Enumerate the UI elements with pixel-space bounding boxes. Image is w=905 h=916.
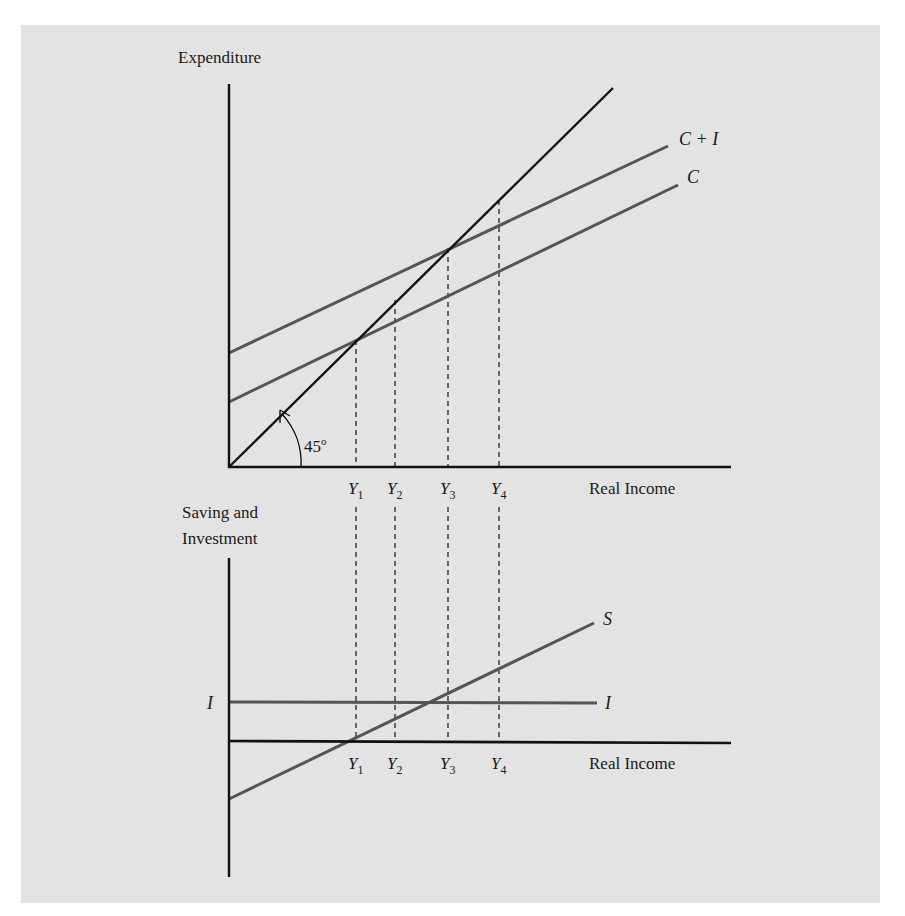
tick-y2: Y2: [387, 479, 402, 502]
forty-five-degree-line: [229, 88, 613, 467]
tick-y1: Y1: [348, 479, 363, 502]
angle-label: 45o: [304, 435, 327, 456]
s-curve-label: S: [603, 609, 612, 629]
investment-label: Investment: [182, 529, 258, 548]
top-panel: Expenditure 45o C + I C Y1 Y2 Y3 Y4 Real…: [178, 48, 731, 502]
saving-line: [229, 623, 594, 799]
tick-y1-bottom: Y1: [348, 754, 363, 777]
tick-y2-bottom: Y2: [387, 754, 402, 777]
tick-y4-bottom: Y4: [491, 754, 506, 777]
bottom-panel: Saving and Investment I I S Y1 Y2 Y3 Y4 …: [182, 503, 731, 877]
tick-y3: Y3: [440, 479, 455, 502]
keynesian-cross-diagram: Expenditure 45o C + I C Y1 Y2 Y3 Y4 Real…: [0, 0, 905, 916]
connector-guide-lines: [356, 507, 499, 741]
real-income-label-bottom: Real Income: [589, 754, 675, 773]
c-label: C: [687, 167, 700, 187]
i-axis-label: I: [206, 693, 214, 713]
tick-y4: Y4: [491, 479, 506, 502]
i-curve-label: I: [604, 693, 612, 713]
c-line: [229, 185, 678, 402]
tick-y3-bottom: Y3: [440, 754, 455, 777]
angle-arc-icon: [282, 414, 301, 467]
saving-label: Saving and: [182, 503, 259, 522]
real-income-label-top: Real Income: [589, 479, 675, 498]
real-income-axis-bottom: [228, 741, 731, 743]
expenditure-axis-label: Expenditure: [178, 48, 261, 67]
top-guide-lines: [356, 200, 499, 467]
investment-line: [229, 702, 597, 703]
c-plus-i-label: C + I: [679, 129, 719, 149]
